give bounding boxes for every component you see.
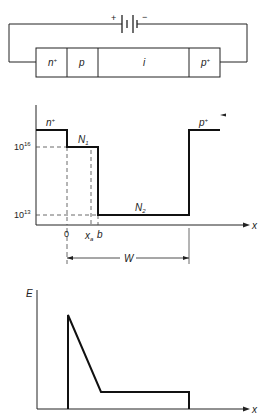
pin-diode-diagram: + − n+ p i p+ n+ p+ 1016 1013 N1 N2: [0, 0, 270, 417]
region-n-plus-label: n+: [48, 57, 58, 68]
profile-n-plus-label: n+: [46, 117, 56, 128]
width-label: W: [124, 253, 135, 264]
n2-label: N2: [135, 202, 146, 214]
n1-label: N1: [78, 134, 89, 146]
region-p-label: p: [78, 57, 85, 68]
tick-1e13-label: 1013: [14, 209, 31, 220]
circuit: [9, 15, 247, 77]
profile-p-plus-label: p+: [198, 117, 209, 128]
tick-xa-label: xa: [84, 230, 94, 242]
battery-icon: [122, 15, 137, 33]
battery-minus-label: −: [142, 12, 147, 22]
e-x-axis-arrow-icon: [243, 407, 250, 412]
doping-profile-curve: [36, 130, 220, 215]
region-i-label: i: [143, 57, 146, 68]
battery-plus-label: +: [111, 13, 116, 23]
arrow-left-icon: [67, 256, 73, 260]
pointer-arrow-icon: [220, 114, 226, 117]
e-x-axis-label: x: [251, 404, 258, 415]
e-axis-label: E: [26, 288, 33, 299]
device-body: [36, 48, 220, 77]
tick-1e16-label: 1016: [14, 141, 31, 152]
profile-x-axis-label: x: [251, 220, 258, 231]
tick-zero-label: 0: [64, 229, 69, 239]
doping-profile-plot: [36, 105, 250, 264]
wire-left: [9, 24, 122, 62]
field-profile-plot: [37, 290, 250, 412]
region-p-plus-label: p+: [200, 57, 211, 68]
field-curve: [68, 315, 189, 409]
x-axis-arrow-icon: [243, 223, 250, 228]
arrow-right-icon: [183, 256, 189, 260]
tick-b-label: b: [97, 229, 103, 240]
wire-right: [137, 24, 247, 62]
